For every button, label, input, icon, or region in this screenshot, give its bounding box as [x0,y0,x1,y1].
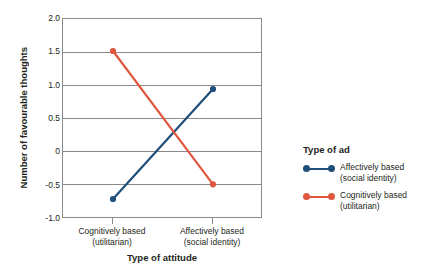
series-line-affectively-based [110,86,216,202]
series-1-line [113,51,213,184]
y-axis-title-text: Number of favourable thoughts [18,47,29,188]
x-tick-label-line2: (social identity) [152,237,272,248]
y-axis-title: Number of favourable thoughts [14,22,32,214]
y-tick-label: -0.5 [34,180,60,190]
plot-area [62,18,262,218]
series-1-point-1 [210,181,216,187]
series-0-point-1 [210,86,216,92]
legend-dot-left-blue [303,165,310,172]
x-tick-label-affectively-based: Affectively based (social identity) [152,226,272,248]
legend: Type of ad Affectively based (social ide… [303,144,425,218]
x-tick-mark [112,218,113,224]
legend-item-cognitively-based[interactable]: Cognitively based (utilitarian) [303,190,425,212]
legend-label-affectively-based: Affectively based (social identity) [340,162,404,184]
legend-swatch-red [303,191,335,202]
chart-figure: Number of favourable thoughts 2.0 1.5 1.… [0,0,429,272]
legend-label-line2: (social identity) [340,173,404,184]
series-0-line [113,89,213,199]
legend-title: Type of ad [303,144,425,155]
x-tick-label-line1: Affectively based [152,226,272,237]
y-tick-label: 1.0 [34,80,60,90]
legend-dot-right-red [328,193,335,200]
legend-dot-right-blue [328,165,335,172]
legend-swatch-blue [303,163,335,174]
series-line-cognitively-based [110,48,216,188]
series-1-point-0 [110,48,116,54]
y-tick-label: 2.0 [34,13,60,23]
data-series-layer [63,19,263,219]
y-tick-label: -1.0 [34,213,60,223]
legend-item-affectively-based[interactable]: Affectively based (social identity) [303,162,425,184]
x-axis-title: Type of attitude [62,252,262,263]
y-tick-label: 0.5 [34,113,60,123]
legend-label-line2: (utilitarian) [340,201,407,212]
legend-dot-left-red [303,193,310,200]
series-0-point-0 [110,196,116,202]
y-axis-tick-labels: 2.0 1.5 1.0 0.5 0 -0.5 -1.0 [32,18,60,218]
legend-label-line1: Affectively based [340,162,404,173]
legend-label-cognitively-based: Cognitively based (utilitarian) [340,190,407,212]
legend-label-line1: Cognitively based [340,190,407,201]
y-tick-label: 0 [34,146,60,156]
y-tick-label: 1.5 [34,46,60,56]
x-tick-mark [212,218,213,224]
